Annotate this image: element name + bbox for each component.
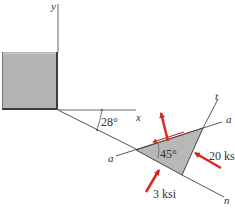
y-axis-label: y xyxy=(51,1,56,12)
support-block xyxy=(2,52,58,110)
inclination-angle-label: 28° xyxy=(101,116,118,128)
x-axis-label: x xyxy=(136,112,141,123)
inclined-line xyxy=(58,110,140,151)
a-axis-label-right: a xyxy=(226,114,232,125)
right-stress-label: 20 ksi xyxy=(209,150,235,162)
t-axis-label: t xyxy=(215,91,218,102)
element-angle-label: 45° xyxy=(160,148,177,160)
n-axis-label: n xyxy=(224,195,230,206)
a-axis-label-left: a xyxy=(108,153,114,164)
bottom-stress-label: 3 ksi xyxy=(153,188,176,200)
stress-element-diagram: y x 28° a a t n 45° 20 ksi 3 ksi xyxy=(0,0,235,208)
n-axis xyxy=(182,175,224,197)
normal-stress-arrow-top xyxy=(161,113,168,141)
diagram-canvas xyxy=(0,0,235,208)
